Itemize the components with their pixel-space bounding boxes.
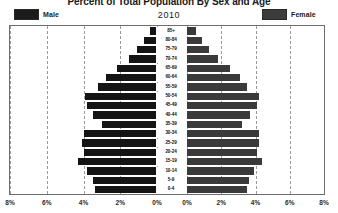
- bar-female: [187, 93, 259, 100]
- plot-area: 85+80-8475-7970-7465-6960-6455-5950-5445…: [9, 25, 325, 195]
- pyramid-row: 20-24: [10, 148, 324, 157]
- pyramid-row: 55-59: [10, 83, 324, 92]
- pyramid-row: 0-4: [10, 185, 324, 194]
- x-tick-left-6: 6%: [42, 199, 51, 206]
- bar-male: [93, 177, 157, 184]
- pyramid-row: 75-79: [10, 45, 324, 54]
- chart-title: Percent of Total Population By Sex and A…: [0, 0, 338, 7]
- bar-male: [87, 102, 157, 109]
- pyramid-row: 35-39: [10, 120, 324, 129]
- pyramid-row: 85+: [10, 27, 324, 36]
- age-group-label: 85+: [156, 27, 186, 36]
- age-group-label: 55-59: [156, 83, 186, 92]
- age-group-label: 70-74: [156, 55, 186, 64]
- bar-male: [93, 111, 157, 118]
- age-group-label: 5-9: [156, 176, 186, 185]
- age-group-label: 25-29: [156, 139, 186, 148]
- age-group-label: 50-54: [156, 92, 186, 101]
- bar-male: [85, 93, 157, 100]
- age-group-label: 10-14: [156, 167, 186, 176]
- bar-female: [187, 177, 249, 184]
- bar-female: [187, 139, 259, 146]
- bar-female: [187, 149, 257, 156]
- bar-female: [187, 46, 209, 53]
- pyramid-row: 10-14: [10, 167, 324, 176]
- pyramid-row: 15-19: [10, 157, 324, 166]
- bar-female: [187, 65, 230, 72]
- age-group-label: 60-64: [156, 73, 186, 82]
- pyramid-row: 70-74: [10, 55, 324, 64]
- age-group-label: 20-24: [156, 148, 186, 157]
- pyramid-row: 45-49: [10, 101, 324, 110]
- bar-male: [129, 55, 157, 62]
- bar-male: [102, 121, 157, 128]
- bar-female: [187, 167, 254, 174]
- pyramid-row: 65-69: [10, 64, 324, 73]
- pyramid-row: 50-54: [10, 92, 324, 101]
- pyramid-row: 5-9: [10, 176, 324, 185]
- x-tick-right-0: 0%: [182, 199, 191, 206]
- pyramid-row: 80-84: [10, 36, 324, 45]
- x-tick-left-8: 8%: [5, 199, 14, 206]
- age-group-label: 80-84: [156, 36, 186, 45]
- chart-year-label: 2010: [0, 10, 338, 20]
- bar-male: [98, 83, 157, 90]
- bar-female: [187, 37, 202, 44]
- bar-male: [78, 158, 157, 165]
- bar-female: [187, 186, 247, 193]
- x-tick-right-6: 6%: [285, 199, 294, 206]
- bar-female: [187, 55, 218, 62]
- x-tick-left-2: 2%: [116, 199, 125, 206]
- age-group-label: 15-19: [156, 157, 186, 166]
- bar-female: [187, 111, 250, 118]
- x-tick-right-4: 4%: [251, 199, 260, 206]
- population-pyramid-chart: Percent of Total Population By Sex and A…: [0, 0, 338, 213]
- pyramid-row: 30-34: [10, 129, 324, 138]
- bar-male: [117, 65, 157, 72]
- x-tick-left-0: 0%: [152, 199, 161, 206]
- bar-female: [187, 27, 196, 34]
- bar-female: [187, 130, 259, 137]
- age-group-label: 30-34: [156, 129, 186, 138]
- age-group-label: 35-39: [156, 120, 186, 129]
- age-group-label: 65-69: [156, 64, 186, 73]
- x-axis: 8%6%4%2%0%0%2%4%6%8%: [9, 196, 325, 210]
- x-tick-left-4: 4%: [79, 199, 88, 206]
- x-tick-right-2: 2%: [217, 199, 226, 206]
- bar-male: [84, 130, 158, 137]
- age-group-label: 40-44: [156, 111, 186, 120]
- bar-female: [187, 102, 257, 109]
- bar-male: [82, 139, 157, 146]
- bar-male: [137, 46, 157, 53]
- x-tick-right-8: 8%: [319, 199, 328, 206]
- pyramid-row: 40-44: [10, 111, 324, 120]
- bar-male: [87, 167, 157, 174]
- age-group-label: 0-4: [156, 185, 186, 194]
- pyramid-row: 60-64: [10, 73, 324, 82]
- bar-male: [84, 149, 158, 156]
- pyramid-row: 25-29: [10, 139, 324, 148]
- age-group-label: 75-79: [156, 45, 186, 54]
- bar-male: [95, 186, 157, 193]
- bar-female: [187, 158, 262, 165]
- bar-female: [187, 74, 240, 81]
- bar-female: [187, 83, 247, 90]
- gridline-right-8: [324, 26, 325, 194]
- bar-female: [187, 121, 242, 128]
- age-group-label: 45-49: [156, 101, 186, 110]
- bar-male: [106, 74, 157, 81]
- pyramid-rows: 85+80-8475-7970-7465-6960-6455-5950-5445…: [10, 26, 324, 194]
